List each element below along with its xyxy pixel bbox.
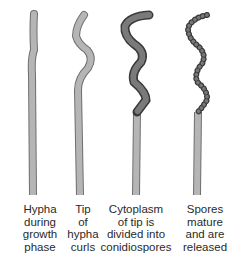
stage-4-label: Spores mature and are released (175, 203, 235, 253)
spore-spiral-icon (125, 15, 149, 195)
hypha-diagram (0, 0, 240, 195)
stage-3-label: Cytoplasm of tip is divided into conidio… (99, 203, 173, 253)
spore-chain-icon (188, 15, 207, 195)
curled-hypha-icon (76, 15, 91, 195)
straight-hypha-icon (32, 14, 34, 195)
